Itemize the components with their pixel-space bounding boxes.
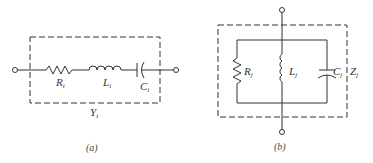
figure-b-bottom-terminal [280,130,285,135]
label-y-i: Yi [90,106,98,120]
figure-a-resistor-icon [46,66,72,74]
figure-b-parallel-circuit [218,8,347,135]
figure-a-right-terminal [174,68,179,73]
label-l-j: Lj [288,65,297,79]
figure-a-dashed-box [30,37,160,103]
label-l-i: Li [102,76,111,90]
label-r-j: Rj [243,65,253,79]
figure-b-inductor-icon [280,54,282,82]
caption-b: (b) [274,141,286,153]
figure-a-inductor-icon [89,66,121,70]
label-c-j: Cj [333,65,342,79]
figure-b-resistor-icon [233,58,241,84]
figure-a-left-terminal [13,68,18,73]
label-z-j: Zj [350,65,358,79]
label-c-i: Ci [140,80,149,94]
figure-a-series-circuit [13,37,179,103]
label-r-i: Ri [55,76,65,90]
caption-a: (a) [86,142,98,154]
figure-b-top-terminal [280,8,285,13]
circuit-diagrams: Ri Li Ci Yi (a) Rj Lj Cj Zj (b) [0,0,373,163]
